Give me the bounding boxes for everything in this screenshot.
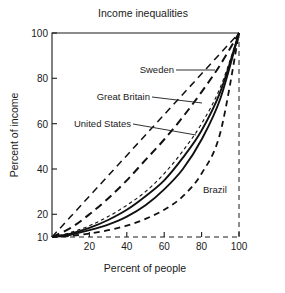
y-tick-label: 40 (37, 164, 49, 175)
x-tick-label: 60 (159, 241, 171, 252)
x-tick-labels: 20 40 60 80 100 (84, 241, 248, 252)
x-tick-label: 20 (84, 241, 96, 252)
x-axis-title: Percent of people (104, 262, 186, 274)
x-tick-label: 40 (121, 241, 133, 252)
chart-canvas: Income inequalities 100 80 60 40 20 10 (0, 0, 285, 293)
leader-line-united-states (133, 124, 196, 135)
series-label-brazil: Brazil (203, 184, 227, 195)
y-tick-label: 80 (37, 73, 49, 84)
series-label-united-states: United States (74, 118, 131, 129)
y-tick-marks (52, 33, 57, 237)
annotation-leader-lines (133, 70, 215, 135)
y-axis-title: Percent of income (8, 93, 20, 178)
income-inequalities-chart: Income inequalities 100 80 60 40 20 10 (0, 0, 285, 293)
y-tick-label: 100 (31, 28, 48, 39)
x-tick-label: 100 (231, 241, 248, 252)
y-tick-label: 60 (37, 119, 49, 130)
y-tick-label: 20 (37, 209, 49, 220)
y-tick-label: 10 (37, 232, 49, 243)
x-tick-label: 80 (196, 241, 208, 252)
chart-title: Income inequalities (98, 7, 188, 19)
x-tick-marks (89, 232, 239, 237)
series-label-great-britain: Great Britain (97, 91, 150, 102)
series-label-sweden: Sweden (140, 64, 174, 75)
y-tick-labels: 100 80 60 40 20 10 (31, 28, 48, 243)
